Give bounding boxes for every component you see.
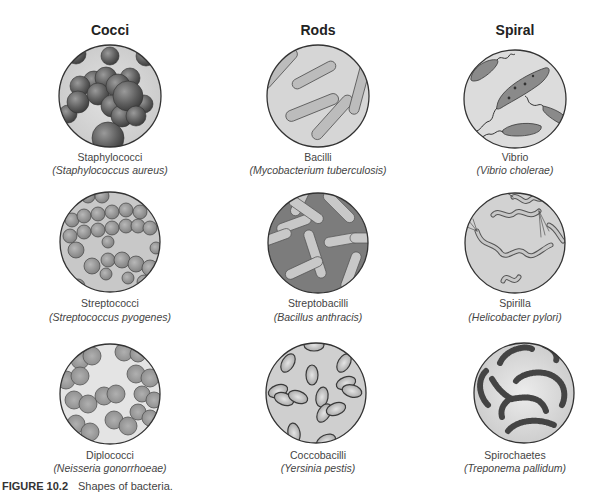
streptobacilli-label: Streptobacilli xyxy=(218,297,418,309)
staphylococci-illustration xyxy=(56,42,164,150)
figure-label: FIGURE 10.2 xyxy=(2,480,68,492)
column-header-cocci: Cocci xyxy=(30,22,190,38)
bacilli-scientific: (Mycobacterium tuberculosis) xyxy=(208,164,428,176)
streptobacilli-scientific: (Bacillus anthracis) xyxy=(208,311,428,323)
vibrio-label: Vibrio xyxy=(415,151,598,163)
column-header-spiral: Spiral xyxy=(435,22,595,38)
bacilli-label: Bacilli xyxy=(218,151,418,163)
spirilla-label: Spirilla xyxy=(415,297,598,309)
spirochaetes-scientific: (Treponema pallidum) xyxy=(405,462,598,474)
streptococci-label: Streptococci xyxy=(10,297,210,309)
bacilli-illustration xyxy=(264,42,372,150)
streptobacilli-illustration xyxy=(266,191,370,295)
vibrio-illustration xyxy=(461,48,569,150)
streptococci-illustration xyxy=(58,190,162,294)
figure-caption: FIGURE 10.2Shapes of bacteria. xyxy=(2,480,173,492)
spirochaetes-illustration xyxy=(472,341,576,445)
spirilla-illustration xyxy=(463,191,567,295)
diplococci-label: Diplococci xyxy=(10,449,210,461)
coccobacilli-label: Coccobacilli xyxy=(218,449,418,461)
coccobacilli-scientific: (Yersinia pestis) xyxy=(208,462,428,474)
spirilla-scientific: (Helicobacter pylori) xyxy=(405,311,598,323)
diplococci-scientific: (Neisseria gonorrhoeae) xyxy=(0,462,220,474)
spirochaetes-label: Spirochaetes xyxy=(415,449,598,461)
column-header-rods: Rods xyxy=(238,22,398,38)
vibrio-scientific: (Vibrio cholerae) xyxy=(405,164,598,176)
diplococci-illustration xyxy=(58,342,162,446)
figure-caption-text: Shapes of bacteria. xyxy=(78,480,173,492)
streptococci-scientific: (Streptococcus pyogenes) xyxy=(0,311,220,323)
coccobacilli-illustration xyxy=(264,341,368,445)
staphylococci-label: Staphylococci xyxy=(10,151,210,163)
staphylococci-scientific: (Staphylococcus aureus) xyxy=(0,164,220,176)
